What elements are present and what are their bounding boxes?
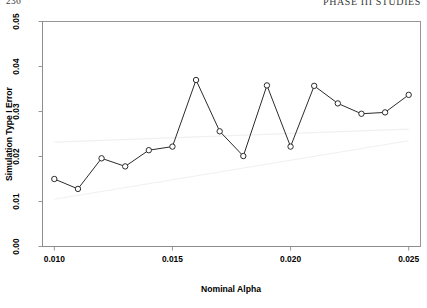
data-point-marker [264, 83, 269, 88]
y-tick-label: 0.05 [11, 13, 21, 30]
figure-container: 236 Phase III Studies 0.000.010.020.030.… [0, 0, 427, 308]
data-point-marker [241, 153, 246, 158]
data-point-marker [52, 176, 57, 181]
data-point-marker [122, 164, 127, 169]
x-tick-label: 0.025 [398, 254, 419, 264]
data-point-marker [311, 83, 316, 88]
y-tick-label: 0.00 [11, 238, 21, 255]
data-point-marker [170, 144, 175, 149]
y-tick-label: 0.01 [11, 193, 21, 210]
x-tick-label: 0.020 [280, 254, 301, 264]
y-axis: 0.000.010.020.030.040.05 [11, 13, 43, 255]
data-point-marker [288, 144, 293, 149]
data-point-marker [335, 101, 340, 106]
y-tick-label: 0.04 [11, 58, 21, 75]
y-axis-title: Simulation Type I Error [4, 86, 14, 181]
series-markers [52, 77, 412, 191]
line-chart: 0.000.010.020.030.040.05 0.0100.0150.020… [0, 0, 427, 308]
series-line [54, 80, 408, 189]
x-axis-title: Nominal Alpha [201, 284, 261, 294]
plot-frame [43, 22, 421, 247]
data-point-marker [406, 92, 411, 97]
data-point-marker [217, 129, 222, 134]
data-point-marker [193, 77, 198, 82]
data-point-marker [382, 110, 387, 115]
upper-confidence-band [54, 129, 408, 142]
x-tick-label: 0.015 [162, 254, 183, 264]
data-point-marker [75, 186, 80, 191]
lower-confidence-band [54, 141, 408, 200]
data-point-marker [359, 111, 364, 116]
x-axis: 0.0100.0150.0200.025 [43, 247, 421, 264]
data-point-marker [146, 148, 151, 153]
x-tick-label: 0.010 [44, 254, 65, 264]
reference-bands [54, 129, 408, 199]
data-point-marker [99, 156, 104, 161]
